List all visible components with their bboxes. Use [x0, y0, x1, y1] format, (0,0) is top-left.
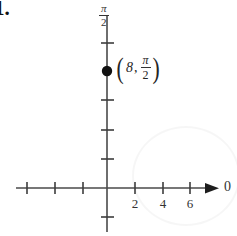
close-paren: ) — [152, 56, 159, 79]
x-axis-end-label: 0 — [224, 180, 231, 194]
x-tick-label-6: 6 — [182, 197, 198, 210]
polar-axis-plot — [0, 0, 237, 236]
x-tick-label-4: 4 — [155, 197, 171, 210]
point-coordinate-label: ( 8 , π 2 ) — [115, 54, 161, 81]
theta-fraction: π 2 — [141, 54, 151, 81]
plotted-point — [102, 66, 112, 76]
x-tick-label-2: 2 — [127, 197, 143, 210]
theta-numerator: π — [141, 54, 151, 66]
pi-over-two-fraction: π 2 — [99, 3, 109, 28]
x-axis-arrowhead — [205, 183, 219, 193]
radius-value: 8 — [125, 60, 134, 76]
fraction-numerator: π — [99, 3, 109, 14]
fraction-denominator: 2 — [99, 17, 109, 28]
open-paren: ( — [116, 56, 123, 79]
theta-denominator: 2 — [141, 69, 151, 81]
figure-container: 1. π 2 ( 8 — [0, 0, 237, 236]
y-axis-label: π 2 — [99, 3, 117, 28]
